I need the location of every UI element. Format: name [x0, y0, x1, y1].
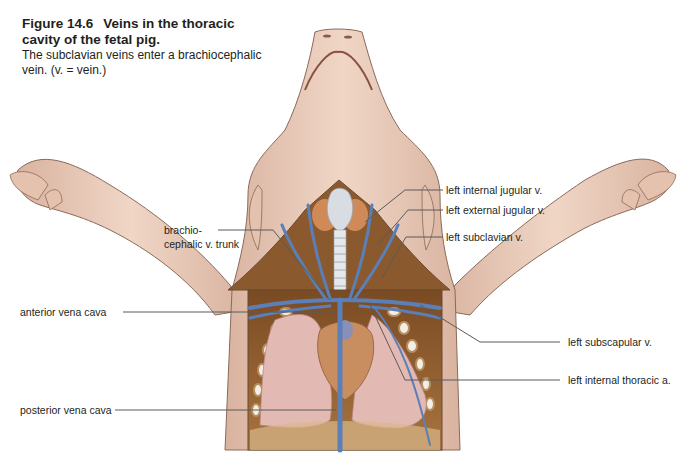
label-left-subclavian-vein: left subclavian v.: [446, 231, 523, 244]
fetal-pig-illustration: [0, 0, 686, 465]
label-left-external-jugular-vein: left external jugular v.: [446, 204, 545, 217]
label-left-internal-thoracic-artery: left internal thoracic a.: [568, 374, 671, 387]
label-posterior-vena-cava: posterior vena cava: [20, 404, 112, 417]
label-left-internal-jugular-vein: left internal jugular v.: [446, 184, 542, 197]
label-brachiocephalic-trunk-line1: brachio-: [164, 224, 202, 237]
label-left-subscapular-vein: left subscapular v.: [568, 336, 652, 349]
label-brachiocephalic-trunk-line2: cephalic v. trunk: [164, 238, 239, 251]
label-anterior-vena-cava: anterior vena cava: [20, 306, 106, 319]
